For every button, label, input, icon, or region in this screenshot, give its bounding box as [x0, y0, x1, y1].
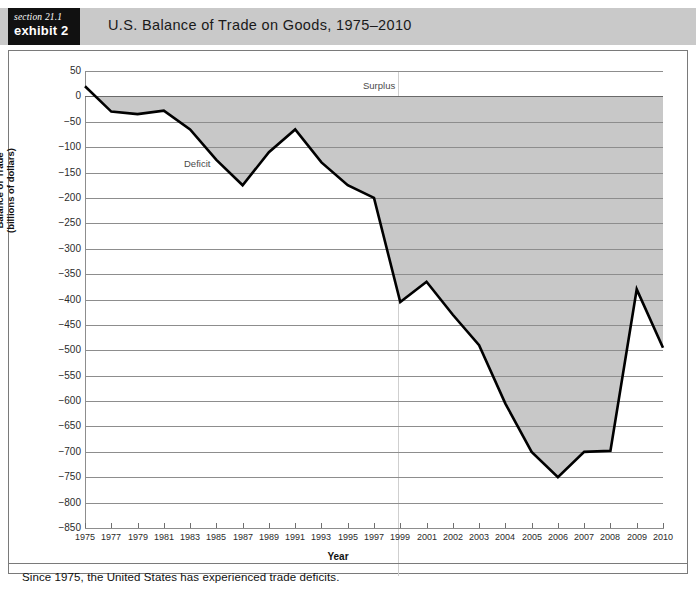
y-tick-label: −500 [58, 345, 81, 355]
x-tick-label: 1983 [180, 532, 200, 543]
x-tick-label: 2008 [600, 532, 620, 543]
chart-frame [8, 50, 688, 574]
gridline [85, 96, 663, 97]
y-tick-label: −750 [58, 472, 81, 482]
gridline [85, 528, 663, 529]
y-tick-label: −650 [58, 421, 81, 431]
x-tick-label: 1995 [338, 532, 358, 543]
gridline [85, 173, 663, 174]
y-tick-label: −250 [58, 218, 81, 228]
gridline [85, 477, 663, 478]
y-axis-title: Balance of Trade (billions of dollars) [0, 148, 16, 233]
x-tick-label: 2003 [469, 532, 489, 543]
y-tick-label: −300 [58, 244, 81, 254]
x-tick-label: 1989 [259, 532, 279, 543]
gridline [85, 503, 663, 504]
y-tick-label: −350 [58, 269, 81, 279]
gridline [85, 223, 663, 224]
x-tick-label: 2006 [548, 532, 568, 543]
y-tick-label: −450 [58, 320, 81, 330]
x-tick-label: 1993 [311, 532, 331, 543]
x-tick-label: 1979 [128, 532, 148, 543]
y-tick-label: −550 [58, 371, 81, 381]
y-tick-label: −800 [58, 498, 81, 508]
y-tick-label: −200 [58, 193, 81, 203]
gridline [85, 147, 663, 148]
x-tick-label: 2005 [522, 532, 542, 543]
y-tick-label: −600 [58, 396, 81, 406]
x-tick-label: 2001 [417, 532, 437, 543]
footer-divider [8, 563, 688, 564]
y-tick-label: −50 [64, 117, 81, 127]
x-tick-label: 2009 [627, 532, 647, 543]
y-axis-title-line2: (billions of dollars) [5, 148, 16, 233]
x-tick-label: 1975 [75, 532, 95, 543]
y-tick-group: 500−50−100−150−200−250−300−350−400−450−5… [37, 0, 81, 605]
gridline [85, 198, 663, 199]
y-tick-label: −150 [58, 168, 81, 178]
gridline [85, 325, 663, 326]
x-tick-label: 1991 [285, 532, 305, 543]
y-tick-label: −100 [58, 142, 81, 152]
x-tick-label: 1997 [364, 532, 384, 543]
gridline [85, 426, 663, 427]
footer-note: Since 1975, the United States has experi… [22, 571, 339, 583]
gridline [85, 274, 663, 275]
page-title: U.S. Balance of Trade on Goods, 1975–201… [108, 17, 412, 33]
gridline [85, 71, 663, 72]
gridline [85, 401, 663, 402]
deficit-annotation: Deficit [184, 158, 210, 169]
gridline [85, 122, 663, 123]
gridline [85, 350, 663, 351]
exhibit-page: section 21.1 exhibit 2 U.S. Balance of T… [0, 0, 696, 605]
y-tick-label: −400 [58, 295, 81, 305]
y-tick-label: 0 [75, 91, 81, 101]
x-tick-mark [663, 523, 664, 528]
x-tick-label: 1985 [206, 532, 226, 543]
surplus-annotation: Surplus [363, 80, 395, 91]
x-axis-title: Year [327, 551, 348, 562]
x-tick-label: 1981 [154, 532, 174, 543]
x-tick-label: 1987 [233, 532, 253, 543]
gridline [85, 376, 663, 377]
x-tick-label: 1977 [101, 532, 121, 543]
x-tick-label: 2004 [495, 532, 515, 543]
y-tick-label: −700 [58, 447, 81, 457]
gridline [85, 300, 663, 301]
x-tick-label: 2007 [574, 532, 594, 543]
x-tick-label: 2010 [653, 532, 673, 543]
y-tick-label: 50 [70, 66, 81, 76]
gridline [85, 249, 663, 250]
x-tick-label: 2002 [443, 532, 463, 543]
x-tick-label: 1999 [390, 532, 410, 543]
gridline [85, 452, 663, 453]
